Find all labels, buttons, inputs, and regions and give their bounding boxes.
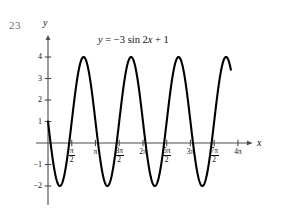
y-tick-label: −1 bbox=[33, 160, 42, 169]
x-axis-arrow bbox=[247, 141, 252, 146]
x-tick-label: π bbox=[83, 148, 107, 156]
x-tick-label: 3π2 bbox=[107, 147, 131, 164]
x-tick-label: 5π2 bbox=[155, 147, 179, 164]
y-axis-arrow bbox=[46, 35, 51, 40]
equation-operator: = −3 sin 2 bbox=[103, 34, 148, 45]
x-tick-label: 3π bbox=[178, 148, 202, 156]
equation-annotation: y = −3 sin 2x + 1 bbox=[98, 34, 169, 45]
y-tick-label: 2 bbox=[38, 95, 42, 104]
y-tick-label: 4 bbox=[38, 52, 42, 61]
y-axis-label: y bbox=[43, 17, 47, 28]
axes-group bbox=[36, 35, 252, 205]
plot-canvas bbox=[0, 0, 286, 220]
y-tick-label: −2 bbox=[33, 181, 42, 190]
y-tick-label: 3 bbox=[38, 74, 42, 83]
x-axis-label: x bbox=[257, 137, 261, 148]
graph-figure: 23 y x y = −3 sin 2x + 1 4321−1−2 π2π3π2… bbox=[0, 0, 286, 220]
equation-rhs: + 1 bbox=[152, 34, 168, 45]
problem-number: 23 bbox=[9, 19, 21, 31]
x-tick-label: 7π2 bbox=[202, 147, 226, 164]
x-tick-label: 4π bbox=[226, 148, 250, 156]
x-tick-label: π2 bbox=[60, 147, 84, 164]
y-tick-label: 1 bbox=[38, 117, 42, 126]
sine-curve bbox=[48, 57, 231, 186]
x-tick-label: 2π bbox=[131, 148, 155, 156]
